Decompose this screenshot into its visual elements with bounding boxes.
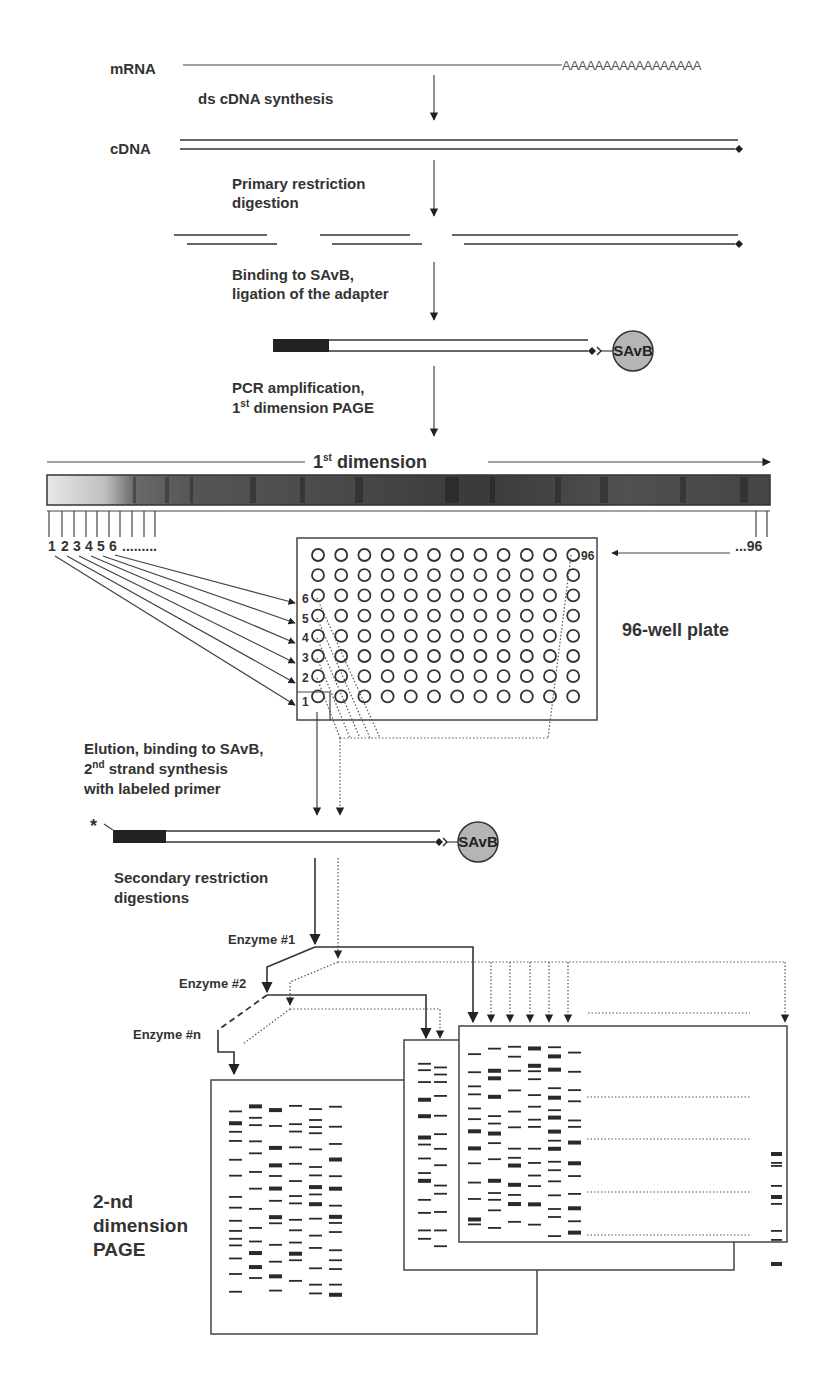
gel-band bbox=[508, 1111, 521, 1113]
gel-band bbox=[468, 1129, 481, 1133]
second-dimension-label-line2: dimension bbox=[93, 1215, 188, 1236]
gel-band bbox=[329, 1158, 342, 1162]
gel-band bbox=[548, 1180, 561, 1182]
gel-band bbox=[434, 1193, 447, 1195]
step2-label-line2: digestion bbox=[232, 194, 299, 211]
gel-band bbox=[548, 1169, 561, 1171]
digested-fragments bbox=[174, 235, 743, 248]
gel-band bbox=[468, 1198, 481, 1200]
mrna-label: mRNA bbox=[110, 60, 156, 77]
gel-band bbox=[309, 1148, 322, 1150]
gel-band bbox=[309, 1267, 322, 1269]
gel-band bbox=[418, 1172, 431, 1174]
gel-band bbox=[329, 1284, 342, 1286]
gel-band bbox=[229, 1273, 242, 1275]
gel-band bbox=[468, 1093, 481, 1095]
gel-band bbox=[548, 1161, 561, 1163]
gel-band bbox=[269, 1222, 282, 1224]
step4-label-line2: 1st dimension PAGE bbox=[232, 398, 374, 416]
well-96-label: 96 bbox=[581, 549, 595, 563]
gel-band bbox=[289, 1252, 302, 1256]
svg-text:1: 1 bbox=[302, 695, 309, 709]
gel-band bbox=[488, 1069, 501, 1073]
gel-band bbox=[508, 1183, 521, 1187]
gel-band bbox=[434, 1211, 447, 1213]
gel-band bbox=[568, 1052, 581, 1054]
savb-label: SAvB bbox=[458, 833, 498, 850]
gel-band bbox=[488, 1227, 501, 1229]
gel-band bbox=[488, 1115, 501, 1117]
adapter-fragment: SAvB bbox=[273, 331, 653, 371]
label-asterisk-icon: * bbox=[90, 816, 97, 836]
gel-band bbox=[771, 1152, 782, 1156]
gel-band bbox=[548, 1147, 561, 1151]
svg-text:5: 5 bbox=[302, 612, 309, 626]
gel-band bbox=[289, 1202, 302, 1204]
gel-band bbox=[309, 1293, 322, 1295]
gel-band bbox=[418, 1069, 431, 1071]
gel-band bbox=[269, 1125, 282, 1127]
gel-band bbox=[771, 1230, 782, 1232]
gel-band bbox=[488, 1142, 501, 1144]
polya-tail: AAAAAAAAAAAAAAAAA bbox=[562, 58, 702, 73]
gel-band bbox=[488, 1192, 501, 1194]
gel-band bbox=[528, 1046, 541, 1050]
gel-band bbox=[289, 1163, 302, 1165]
gel-band bbox=[309, 1126, 322, 1128]
gel-band bbox=[528, 1202, 541, 1206]
savb-label: SAvB bbox=[613, 342, 653, 359]
gel-band bbox=[488, 1199, 501, 1201]
gel-band bbox=[548, 1096, 561, 1100]
gel-band bbox=[568, 1100, 581, 1102]
gel-band bbox=[289, 1105, 302, 1107]
biotin-diamond-icon bbox=[588, 347, 596, 355]
step1-label: ds cDNA synthesis bbox=[198, 90, 333, 107]
gel-band bbox=[468, 1108, 481, 1110]
gel-band bbox=[329, 1175, 342, 1177]
gel-band bbox=[548, 1208, 561, 1210]
svg-text:4: 4 bbox=[85, 538, 93, 554]
gel-band bbox=[229, 1196, 242, 1198]
linker-chevron-icon bbox=[597, 347, 601, 355]
gel-band bbox=[229, 1238, 242, 1240]
svg-text:3: 3 bbox=[73, 538, 81, 554]
gel-band bbox=[249, 1227, 262, 1229]
last-fraction-label: ...96 bbox=[735, 538, 762, 554]
gel-band bbox=[329, 1259, 342, 1261]
gel-band bbox=[771, 1165, 782, 1167]
gel-band bbox=[508, 1148, 521, 1150]
gel-band bbox=[309, 1247, 322, 1249]
gel-band bbox=[289, 1219, 302, 1221]
step5-label-line2: 2nd strand synthesis bbox=[84, 759, 228, 777]
gel-band bbox=[229, 1175, 242, 1177]
cdna-label: cDNA bbox=[110, 140, 151, 157]
gel-band bbox=[418, 1114, 431, 1118]
gel-band bbox=[269, 1274, 282, 1278]
gel-band bbox=[309, 1202, 322, 1206]
gel-band bbox=[488, 1158, 501, 1160]
step5-label-line3: with labeled primer bbox=[83, 780, 221, 797]
gel-band bbox=[488, 1048, 501, 1050]
gel-band bbox=[548, 1109, 561, 1111]
gel-band bbox=[269, 1261, 282, 1263]
gel-band bbox=[548, 1068, 561, 1072]
gel-band bbox=[434, 1133, 447, 1135]
gel-band bbox=[229, 1121, 242, 1125]
gel-band bbox=[528, 1119, 541, 1121]
gel-band bbox=[329, 1143, 342, 1145]
enzyme-n-label: Enzyme #n bbox=[133, 1027, 201, 1042]
gel-band bbox=[309, 1166, 322, 1168]
gel-band bbox=[568, 1161, 581, 1165]
step2-label-line1: Primary restriction bbox=[232, 175, 365, 192]
gel-band bbox=[468, 1085, 481, 1087]
gel-band bbox=[508, 1126, 521, 1128]
gel-band bbox=[269, 1200, 282, 1202]
step4-label-line1: PCR amplification, bbox=[232, 379, 365, 396]
gel-band bbox=[508, 1090, 521, 1092]
biotin-diamond-icon bbox=[435, 838, 443, 846]
gel-band bbox=[434, 1074, 447, 1076]
labeled-fragment: * SAvB bbox=[90, 816, 498, 862]
svg-text:6: 6 bbox=[302, 592, 309, 606]
gel-band bbox=[488, 1123, 501, 1125]
gel-band bbox=[289, 1242, 302, 1244]
